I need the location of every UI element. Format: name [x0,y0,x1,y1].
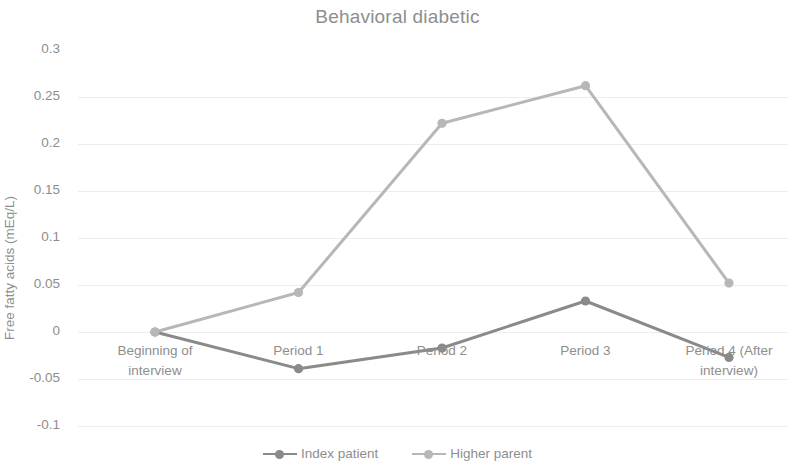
x-axis-tick-label: Period 2 [387,341,497,361]
chart-container: Behavioral diabetic Free fatty acids (mE… [0,0,795,474]
y-axis-tick-label: 0 [12,323,60,338]
y-axis-tick-label: -0.05 [12,370,60,385]
y-axis-tick-label: 0.25 [12,88,60,103]
legend-marker-icon [263,448,297,460]
x-axis-tick-label: Period 4 (After interview) [663,341,795,380]
chart-title: Behavioral diabetic [0,6,795,28]
data-point-marker [581,296,590,305]
legend-marker-icon [412,448,446,460]
chart-legend: Index patientHigher parent [0,446,795,461]
legend-label: Higher parent [450,446,532,461]
y-axis-tick-label: 0.15 [12,182,60,197]
x-axis-tick-label: Beginning of interview [91,341,219,380]
y-axis-tick-label: 0.3 [12,41,60,56]
data-point-marker [294,288,303,297]
data-point-marker [581,81,590,90]
y-axis-tick-label: 0.05 [12,276,60,291]
data-point-marker [150,327,159,336]
x-axis-tick-label: Period 1 [244,341,354,361]
plot-area: 0.30.250.20.150.10.050-0.05-0.1 Beginnin… [78,50,788,426]
legend-item[interactable]: Higher parent [412,446,532,461]
data-point-marker [294,364,303,373]
data-point-marker [437,119,446,128]
data-point-marker [724,279,733,288]
legend-item[interactable]: Index patient [263,446,378,461]
y-axis-tick-label: -0.1 [12,417,60,432]
y-axis-tick-label: 0.2 [12,135,60,150]
x-axis-tick-label: Period 3 [531,341,641,361]
legend-label: Index patient [301,446,378,461]
y-axis-tick-label: 0.1 [12,229,60,244]
gridline [78,426,788,427]
